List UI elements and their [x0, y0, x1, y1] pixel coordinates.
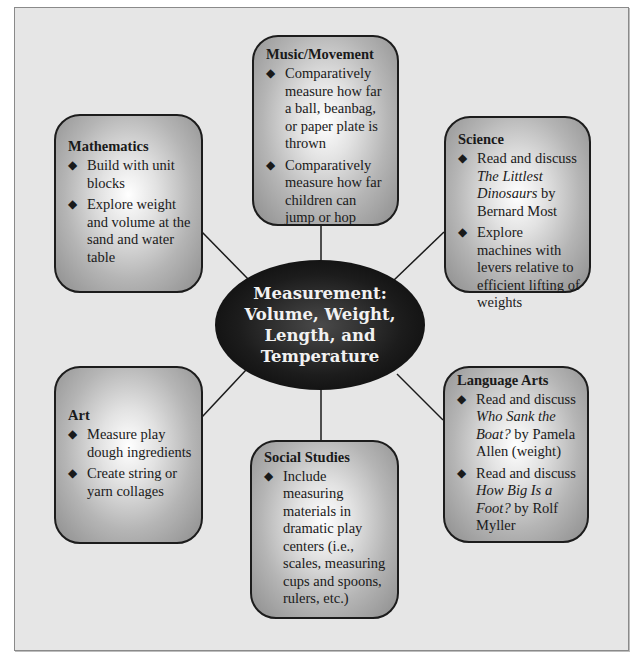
connector-lang — [397, 374, 443, 420]
activity-list: ◆Include measuring materials in dramatic… — [264, 468, 389, 612]
activity-item: ◆Read and discuss How Big Is a Foot? by … — [457, 465, 579, 535]
node-title: Art — [68, 406, 193, 424]
node-title: Music/Movement — [266, 45, 389, 63]
diamond-bullet-icon: ◆ — [266, 65, 275, 83]
activity-item: ◆Comparatively measure how far a ball, b… — [266, 65, 389, 153]
activity-item: ◆Include measuring materials in dramatic… — [264, 468, 389, 608]
diamond-bullet-icon: ◆ — [264, 468, 273, 486]
book-title: The Littlest Dinosaurs — [477, 168, 543, 202]
node-language-arts: Language Arts ◆Read and discuss Who Sank… — [443, 366, 589, 543]
node-title: Language Arts — [457, 371, 579, 389]
node-title: Social Studies — [264, 448, 389, 466]
activity-item: ◆Read and discuss Who Sank the Boat? by … — [457, 391, 579, 461]
diamond-bullet-icon: ◆ — [68, 196, 77, 214]
central-topic-line: Measurement: — [245, 283, 396, 304]
diamond-bullet-icon: ◆ — [458, 150, 467, 168]
activity-item: ◆Read and discuss The Littlest Dinosaurs… — [458, 150, 581, 220]
node-science: Science ◆Read and discuss The Littlest D… — [444, 116, 591, 293]
activity-list: ◆Comparatively measure how far a ball, b… — [266, 65, 389, 231]
activity-item: ◆Comparatively measure how far children … — [266, 157, 389, 227]
node-art: Art ◆Measure play dough ingredients ◆Cre… — [54, 366, 203, 544]
diamond-bullet-icon: ◆ — [458, 224, 467, 242]
node-social-studies: Social Studies ◆Include measuring materi… — [250, 440, 399, 619]
activity-item: ◆Build with unit blocks — [68, 157, 193, 192]
central-topic-node: Measurement: Volume, Weight, Length, and… — [215, 260, 425, 390]
connector-science — [393, 232, 444, 281]
diamond-bullet-icon: ◆ — [266, 157, 275, 175]
central-topic-line: Temperature — [245, 346, 396, 367]
activity-list: ◆Measure play dough ingredients ◆Create … — [68, 426, 193, 504]
central-topic-line: Length, and — [245, 325, 396, 346]
diamond-bullet-icon: ◆ — [68, 157, 77, 175]
node-title: Mathematics — [68, 137, 193, 155]
diamond-bullet-icon: ◆ — [68, 426, 77, 444]
activity-item: ◆Measure play dough ingredients — [68, 426, 193, 461]
node-music-movement: Music/Movement ◆Comparatively measure ho… — [252, 35, 399, 226]
activity-list: ◆Read and discuss Who Sank the Boat? by … — [457, 391, 579, 539]
activity-item: ◆Explore machines with levers relative t… — [458, 224, 581, 312]
node-mathematics: Mathematics ◆Build with unit blocks ◆Exp… — [54, 114, 203, 293]
activity-item: ◆Create string or yarn collages — [68, 465, 193, 500]
diamond-bullet-icon: ◆ — [68, 465, 77, 483]
diamond-bullet-icon: ◆ — [457, 391, 466, 409]
connector-art — [202, 370, 246, 417]
activity-item: ◆Explore weight and volume at the sand a… — [68, 196, 193, 266]
central-topic-line: Volume, Weight, — [245, 304, 396, 325]
diamond-bullet-icon: ◆ — [457, 465, 466, 483]
connector-math — [202, 232, 250, 281]
node-title: Science — [458, 130, 581, 148]
activity-list: ◆Read and discuss The Littlest Dinosaurs… — [458, 150, 581, 316]
activity-list: ◆Build with unit blocks ◆Explore weight … — [68, 157, 193, 270]
